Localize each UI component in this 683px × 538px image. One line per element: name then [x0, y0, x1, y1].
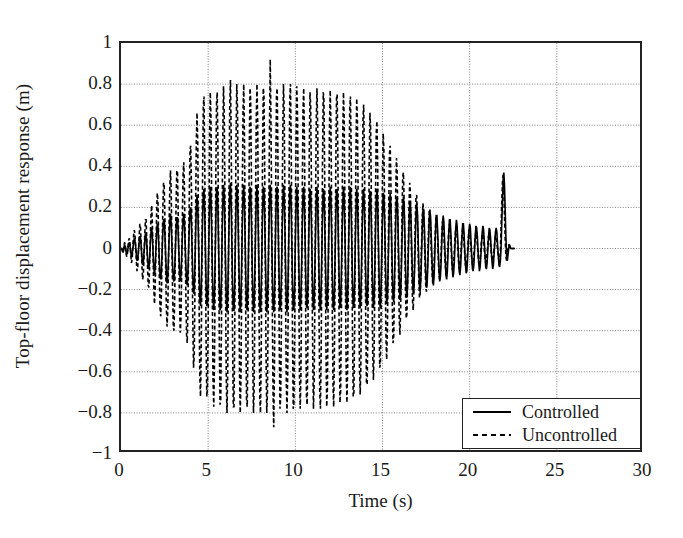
y-tick-label: 1	[64, 32, 112, 51]
y-axis-label: Top-floor displacement response (m)	[0, 0, 46, 452]
y-axis-tick-labels: −1−0.8−0.6−0.4−0.200.20.40.60.81	[60, 0, 112, 538]
y-tick-label: −0.6	[64, 361, 112, 380]
legend-key-dashed-line-icon	[471, 429, 513, 441]
x-axis-label: Time (s)	[119, 490, 642, 512]
legend-label-controlled: Controlled	[522, 403, 599, 421]
x-tick-label: 25	[530, 460, 580, 479]
legend-key-solid-line-icon	[471, 406, 513, 418]
data-series-group	[121, 59, 515, 427]
y-tick-label: 0.8	[64, 73, 112, 92]
x-tick-label: 5	[181, 460, 231, 479]
legend: Controlled Uncontrolled	[462, 398, 641, 449]
y-tick-label: 0.2	[64, 196, 112, 215]
plot-svg	[121, 43, 642, 452]
figure: Top-floor displacement response (m) −1−0…	[0, 0, 683, 538]
y-tick-label: 0.6	[64, 114, 112, 133]
plot-area	[119, 41, 642, 452]
x-tick-label: 10	[268, 460, 318, 479]
y-tick-label: −0.4	[64, 320, 112, 339]
legend-item-uncontrolled: Uncontrolled	[471, 425, 634, 446]
y-tick-label: 0	[64, 238, 112, 257]
y-tick-label: −0.2	[64, 279, 112, 298]
y-tick-label: −0.8	[64, 402, 112, 421]
legend-item-controlled: Controlled	[471, 402, 634, 423]
x-tick-label: 15	[356, 460, 406, 479]
x-axis-tick-labels: 051015202530	[119, 460, 642, 488]
x-tick-label: 0	[94, 460, 144, 479]
x-tick-label: 30	[617, 460, 667, 479]
legend-label-uncontrolled: Uncontrolled	[522, 426, 617, 444]
y-tick-label: 0.4	[64, 155, 112, 174]
x-tick-label: 20	[443, 460, 493, 479]
